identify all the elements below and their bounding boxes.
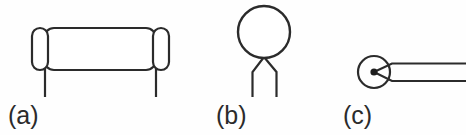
panel-b-drawing — [238, 6, 290, 97]
figure-container: (a) (b) (c) — [0, 0, 466, 135]
panel-c-center-dot — [370, 68, 377, 75]
panel-a-left-cap — [32, 28, 48, 70]
panel-b-label: (b) — [216, 103, 247, 128]
panel-a-body — [44, 28, 156, 70]
panel-b-right-leg — [264, 57, 277, 97]
panel-b-left-leg — [253, 57, 265, 97]
panel-a-right-cap — [153, 28, 169, 70]
panel-c-label: (c) — [343, 103, 372, 128]
panel-a-label: (a) — [8, 103, 39, 128]
panel-b-circle — [238, 6, 290, 58]
panel-c-drawing — [358, 56, 466, 88]
panel-a-drawing — [32, 28, 169, 97]
